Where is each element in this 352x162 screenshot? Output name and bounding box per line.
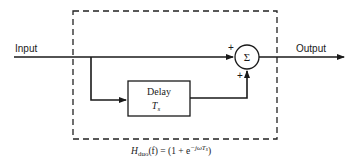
sum-plus-sign-top: + [228, 42, 234, 53]
delay-block-title: Delay [147, 86, 171, 97]
tf-lhs-arg: (f) = (1 + e [148, 146, 190, 157]
tf-lhs-sub: duo [138, 150, 149, 158]
sigma-icon: Σ [244, 51, 250, 63]
input-label: Input [15, 43, 37, 54]
delay-param-sub: s [157, 105, 160, 113]
output-label: Output [296, 43, 326, 54]
duobinary-block-diagram: Input Delay Ts Σ + + Output Hduo(f) = (1… [0, 0, 352, 162]
tf-close: ) [208, 146, 211, 157]
sum-plus-sign-bottom: + [237, 70, 243, 81]
tf-exponent: −jωT [190, 144, 207, 152]
transfer-function-equation: Hduo(f) = (1 + e−jωTs) [130, 144, 211, 158]
branch-to-delay-line [91, 57, 126, 100]
